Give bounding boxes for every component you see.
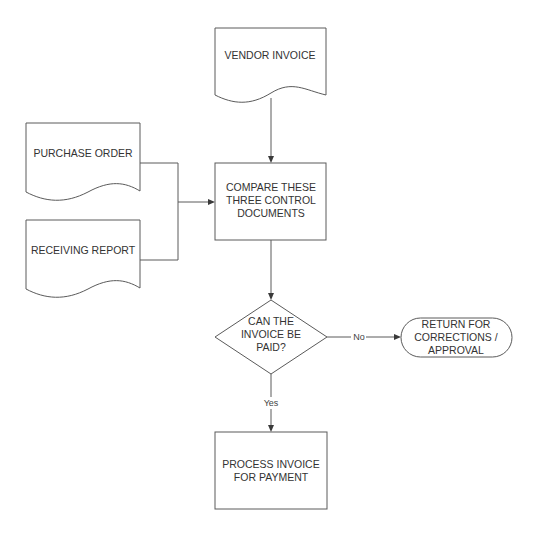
compare-documents-process: COMPARE THESE THREE CONTROL DOCUMENTS xyxy=(215,163,326,240)
compare-label-line-1: COMPARE THESE xyxy=(226,181,316,193)
return-label-line-2: CORRECTIONS / xyxy=(414,331,498,343)
compare-label-line-2: THREE CONTROL xyxy=(226,194,316,206)
purchase-order-label: PURCHASE ORDER xyxy=(33,147,133,159)
arrow-head-icon xyxy=(394,334,401,340)
receiving-report-document: RECEIVING REPORT xyxy=(26,220,140,297)
vendor-invoice-label: VENDOR INVOICE xyxy=(224,49,315,61)
no-label: No xyxy=(353,332,365,342)
process-label-line-1: PROCESS INVOICE xyxy=(222,458,319,470)
decision-label-line-3: PAID? xyxy=(256,341,286,353)
no-branch-connector: No xyxy=(327,332,401,342)
vendor-invoice-document: VENDOR INVOICE xyxy=(215,28,326,102)
merge-connector xyxy=(140,163,215,260)
arrow-head-icon xyxy=(268,425,274,432)
yes-branch-connector: Yes xyxy=(264,374,279,432)
arrow-head-icon xyxy=(268,293,274,300)
arrow-head-icon xyxy=(208,199,215,205)
receiving-report-label: RECEIVING REPORT xyxy=(31,244,136,256)
flowchart-canvas: VENDOR INVOICE PURCHASE ORDER RECEIVING … xyxy=(0,0,536,537)
can-invoice-be-paid-decision: CAN THE INVOICE BE PAID? xyxy=(215,300,327,374)
arrow-head-icon xyxy=(268,156,274,163)
process-invoice-process: PROCESS INVOICE FOR PAYMENT xyxy=(215,432,327,509)
decision-label-line-1: CAN THE xyxy=(248,315,294,327)
invoice-to-compare-connector xyxy=(268,98,274,163)
compare-to-decision-connector xyxy=(268,240,274,300)
purchase-order-document: PURCHASE ORDER xyxy=(26,123,140,200)
return-label-line-1: RETURN FOR xyxy=(422,318,491,330)
return-for-corrections-terminator: RETURN FOR CORRECTIONS / APPROVAL xyxy=(401,318,512,357)
process-label-line-2: FOR PAYMENT xyxy=(234,471,309,483)
return-label-line-3: APPROVAL xyxy=(428,344,484,356)
compare-label-line-3: DOCUMENTS xyxy=(237,207,305,219)
yes-label: Yes xyxy=(264,398,279,408)
decision-label-line-2: INVOICE BE xyxy=(241,328,301,340)
